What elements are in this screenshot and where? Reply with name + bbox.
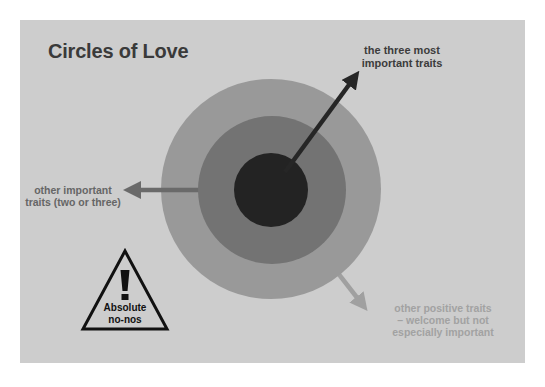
- label-line: traits (two or three): [18, 196, 128, 208]
- outer-ring-label: other positive traits – welcome but not …: [370, 302, 516, 338]
- label-line: other important: [18, 184, 128, 196]
- warning-label: Absolute no-nos: [95, 302, 155, 326]
- label-line: especially important: [370, 326, 516, 338]
- inner-core: [234, 153, 308, 227]
- label-line: the three most: [332, 44, 472, 57]
- label-line: other positive traits: [370, 302, 516, 314]
- label-line: – welcome but not: [370, 314, 516, 326]
- label-line: important traits: [332, 57, 472, 70]
- middle-ring-label: other important traits (two or three): [18, 184, 128, 208]
- warning-line: no-nos: [95, 314, 155, 326]
- inner-core-label: the three most important traits: [332, 44, 472, 70]
- warning-line: Absolute: [95, 302, 155, 314]
